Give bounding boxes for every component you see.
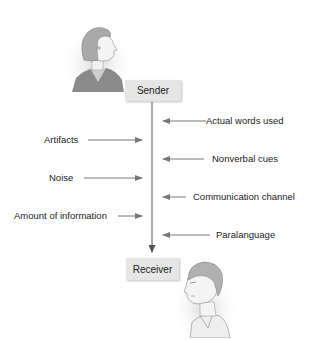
- flow-arrows: [0, 0, 316, 340]
- factor-artifacts: Artifacts: [44, 134, 78, 146]
- factor-paralanguage: Paralanguage: [216, 229, 275, 241]
- receiver-label: Receiver: [133, 264, 172, 275]
- sender-label: Sender: [137, 85, 169, 96]
- factor-amount-of-information: Amount of information: [14, 210, 107, 222]
- communication-diagram: Sender Receiver Actual words used Nonver…: [0, 0, 316, 340]
- receiver-box: Receiver: [126, 258, 179, 280]
- factor-nonverbal-cues: Nonverbal cues: [212, 153, 278, 165]
- sender-box: Sender: [125, 80, 181, 101]
- factor-actual-words-used: Actual words used: [206, 115, 284, 127]
- factor-noise: Noise: [49, 172, 73, 184]
- factor-communication-channel: Communication channel: [193, 191, 295, 203]
